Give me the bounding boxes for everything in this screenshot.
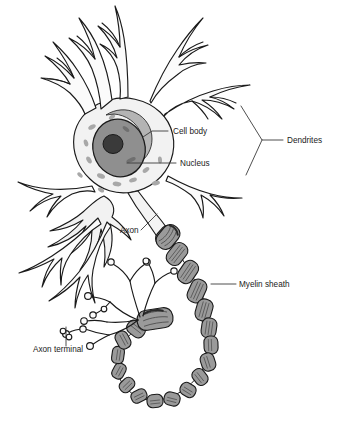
label-nucleus: Nucleus xyxy=(180,159,210,168)
terminal-bouton xyxy=(87,343,94,350)
terminal-branch xyxy=(85,329,109,335)
terminal-branch xyxy=(155,272,172,283)
nissl-body xyxy=(76,171,83,178)
terminal-branch xyxy=(148,263,155,283)
terminal-branch xyxy=(92,335,109,345)
terminal-bouton xyxy=(171,268,177,274)
myelin-segment xyxy=(178,380,198,400)
terminal-bouton xyxy=(66,334,72,340)
leader-line-dendrites xyxy=(241,106,283,175)
terminal-branch xyxy=(110,302,138,320)
axon-group xyxy=(110,191,218,408)
label-cell-body: Cell body xyxy=(173,127,208,136)
nucleolus xyxy=(103,135,123,154)
terminal-branch xyxy=(130,281,140,317)
myelin-segment xyxy=(146,394,163,409)
terminal-bouton xyxy=(101,306,107,312)
terminal-bouton xyxy=(90,312,96,318)
dendrite-trunk-right-upper xyxy=(164,85,250,119)
terminal-branch xyxy=(86,320,107,322)
terminal-bouton xyxy=(80,326,86,332)
label-axon: Axon xyxy=(120,226,139,235)
terminal-bouton xyxy=(143,258,149,264)
dendrite-trunk-right-lower xyxy=(166,176,242,218)
terminal-branch xyxy=(113,264,130,281)
terminal-bouton xyxy=(108,259,114,265)
myelin-segment xyxy=(129,387,149,405)
myelin-segment-terminal xyxy=(136,306,175,331)
neuron-diagram-svg: Cell bodyNucleusDendritesAxonMyelin shea… xyxy=(0,0,338,426)
terminal-bouton xyxy=(81,318,88,325)
label-axon-terminal: Axon terminal xyxy=(33,345,83,354)
terminal-branch xyxy=(130,264,145,281)
terminal-bouton xyxy=(85,293,92,300)
dendrite-trunk-upper-right xyxy=(150,18,208,103)
label-myelin-sheath: Myelin sheath xyxy=(239,280,290,289)
terminal-bouton xyxy=(60,328,66,334)
neuron-diagram-figure: Cell bodyNucleusDendritesAxonMyelin shea… xyxy=(0,0,338,426)
myelin-segment xyxy=(204,336,219,354)
label-dendrites: Dendrites xyxy=(287,136,322,145)
